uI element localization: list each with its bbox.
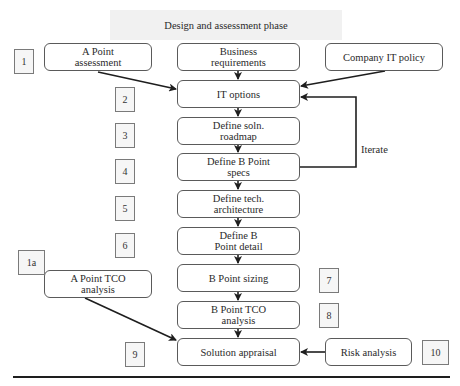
node-text: Business: [211, 46, 266, 57]
step-number-5: 5: [115, 196, 135, 221]
company-it-policy-node: Company IT policy: [325, 43, 443, 71]
step-number-4: 4: [115, 159, 135, 184]
define-b-point-specs-node: Define B Pointspecs: [177, 153, 300, 181]
step-number-10: 10: [422, 340, 449, 365]
step-number-2: 2: [115, 87, 135, 112]
node-text: B Point sizing: [209, 273, 269, 284]
define-tech-architecture-node: Define tech.architecture: [177, 190, 300, 218]
node-text: Solution appraisal: [200, 347, 276, 358]
node-text: Define B: [214, 230, 262, 241]
node-text: Company IT policy: [343, 52, 425, 63]
node-text: Define soln.: [213, 120, 264, 131]
step-number-1: 1: [14, 49, 34, 74]
a-point-assessment-node: A Pointassessment: [44, 43, 152, 71]
iterate-label: Iterate: [361, 144, 388, 155]
node-text: requirements: [211, 57, 266, 68]
node-text: analysis: [211, 315, 266, 326]
b-point-tco-analysis-node: B Point TCOanalysis: [177, 301, 300, 329]
node-text: B Point TCO: [211, 304, 266, 315]
it-options-node: IT options: [177, 80, 300, 108]
step-number-3: 3: [115, 123, 135, 148]
node-text: specs: [207, 167, 270, 178]
node-text: Risk analysis: [341, 347, 397, 358]
step-number-8: 8: [319, 303, 339, 328]
node-text: Define B Point: [207, 156, 270, 167]
node-text: A Point TCO: [70, 273, 125, 284]
solution-appraisal-node: Solution appraisal: [177, 338, 300, 366]
define-solution-roadmap-node: Define soln.roadmap: [177, 117, 300, 145]
node-text: Point detail: [214, 241, 262, 252]
bottom-divider: [13, 376, 450, 378]
b-point-sizing-node: B Point sizing: [177, 264, 300, 292]
define-b-point-detail-node: Define BPoint detail: [177, 227, 300, 255]
node-text: analysis: [70, 284, 125, 295]
node-text: Define tech.: [213, 193, 264, 204]
step-number-1a: 1a: [18, 250, 45, 275]
step-number-9: 9: [125, 342, 145, 367]
node-text: IT options: [217, 89, 260, 100]
step-number-6: 6: [115, 233, 135, 258]
business-requirements-node: Businessrequirements: [177, 43, 300, 71]
node-text: architecture: [213, 204, 264, 215]
node-text: assessment: [75, 57, 122, 68]
risk-analysis-node: Risk analysis: [325, 338, 412, 366]
diagram-canvas: Design and assessment phase: [0, 0, 460, 386]
node-text: A Point: [75, 46, 122, 57]
step-number-7: 7: [319, 268, 339, 293]
node-text: roadmap: [213, 131, 264, 142]
a-point-tco-analysis-node: A Point TCOanalysis: [44, 270, 152, 298]
